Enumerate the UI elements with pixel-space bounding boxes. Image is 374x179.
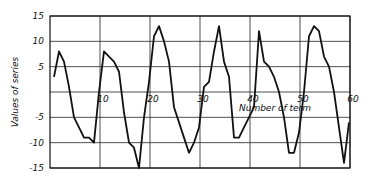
x-axis-label: Number of term <box>239 103 311 113</box>
y-tick-label: -15 <box>29 163 44 173</box>
y-tick-label: -10 <box>29 138 44 148</box>
y-tick-label: 5 <box>38 62 44 72</box>
y-axis-label: Values of series <box>10 56 20 127</box>
line-chart: 15105-5-10-15 102030405060 Values of ser… <box>0 0 374 179</box>
y-tick-label: 10 <box>33 36 45 46</box>
x-axis-tick-labels: 102030405060 <box>97 94 359 104</box>
y-tick-label: -5 <box>35 112 44 122</box>
x-tick-label: 20 <box>147 94 159 104</box>
grid-lines <box>50 16 350 168</box>
y-axis-tick-labels: 15105-5-10-15 <box>29 11 44 173</box>
x-tick-label: 60 <box>347 94 359 104</box>
y-tick-label: 15 <box>33 11 45 21</box>
